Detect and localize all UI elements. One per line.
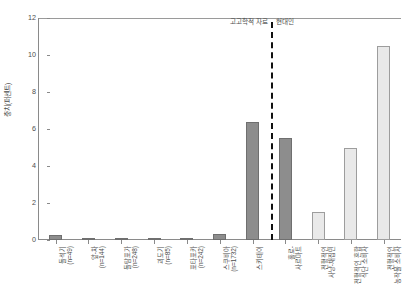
x-tick-label: 포타포카 (n=242) [190, 246, 205, 304]
x-tick-label: 돌석기 (n=49) [59, 246, 74, 304]
x-tick-mark [220, 240, 221, 244]
x-tick-label: 스쿠비아 (n=1732) [223, 246, 238, 304]
x-tick-label: 전형적인 사냥-채집민 [321, 246, 336, 304]
x-tick-label: 괴도기 (n=85) [157, 246, 172, 304]
x-tick-mark [253, 240, 254, 244]
x-tick-mark [121, 240, 122, 244]
x-tick-label: 스키테이 [256, 246, 263, 304]
y-tick-label: 4 [20, 162, 36, 169]
bar [377, 46, 390, 240]
x-tick-mark [318, 240, 319, 244]
x-axis-ticks [39, 240, 400, 245]
annotation-modern: 현대인 [276, 18, 336, 26]
y-tick-label: 0 [20, 236, 36, 243]
x-tick-label: 앞-차 (n=144) [91, 246, 106, 304]
bars-layer [39, 18, 400, 240]
x-tick-label: 전형적인 농작물 소비자 [387, 246, 402, 304]
x-tick-mark [384, 240, 385, 244]
y-axis-ticks: 024681012 [12, 18, 36, 240]
y-tick-label: 2 [20, 199, 36, 206]
y-tick-label: 12 [20, 14, 36, 21]
x-tick-label: 홀로- 사르마트 [288, 246, 303, 304]
bar [344, 148, 357, 241]
bar [246, 122, 259, 240]
x-tick-mark [285, 240, 286, 244]
bar [279, 138, 292, 240]
caries-prevalence-bar-chart: 024681012 충치(퍼센트) 고고학적 자료 현대인 돌석기 (n=49)… [0, 0, 409, 305]
x-tick-mark [154, 240, 155, 244]
x-axis-labels: 돌석기 (n=49)앞-차 (n=144)돌탐포가 (n=248)괴도기 (n=… [39, 246, 400, 305]
y-axis-title: 충치(퍼센트) [4, 65, 12, 135]
x-tick-label: 전형적인 혼합 식단 소비자 [354, 246, 369, 304]
y-tick-label: 10 [20, 51, 36, 58]
annotation-archaeological: 고고학적 자료 [196, 18, 268, 26]
bar [312, 212, 325, 240]
x-tick-mark [351, 240, 352, 244]
x-tick-mark [88, 240, 89, 244]
y-tick-label: 8 [20, 88, 36, 95]
y-tick-label: 6 [20, 125, 36, 132]
x-tick-mark [187, 240, 188, 244]
x-tick-label: 돌탐포가 (n=248) [124, 246, 139, 304]
era-divider-line [271, 22, 273, 240]
x-tick-mark [56, 240, 57, 244]
